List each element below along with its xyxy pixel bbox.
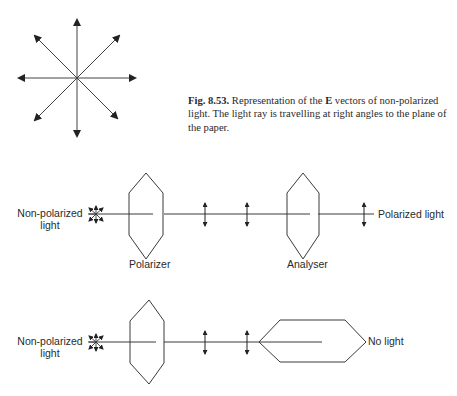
analyser-crystal	[287, 173, 319, 259]
bottom-diagram	[88, 300, 366, 384]
figure-number: Fig. 8.53.	[188, 95, 229, 106]
crossed-analyser-crystal	[259, 320, 366, 362]
polarizer-crystal	[129, 173, 163, 259]
top-source-label: Non-polarized light	[14, 207, 86, 231]
bottom-source-label: Non-polarized light	[14, 335, 86, 359]
figure-caption: Fig. 8.53. Representation of the E vecto…	[188, 94, 453, 134]
top-diagram	[88, 173, 374, 259]
caption-text-pre: Representation of the	[232, 95, 325, 106]
polarized-light-label: Polarized light	[378, 208, 444, 220]
e-vector-star-icon	[19, 20, 135, 136]
analyser-label: Analyser	[287, 258, 328, 270]
label-line: Non-polarized	[14, 207, 86, 219]
label-line: light	[14, 219, 86, 231]
label-line: light	[14, 347, 86, 359]
label-line: Non-polarized	[14, 335, 86, 347]
no-light-label: No light	[368, 335, 404, 347]
polarizer-label: Polarizer	[129, 258, 170, 270]
